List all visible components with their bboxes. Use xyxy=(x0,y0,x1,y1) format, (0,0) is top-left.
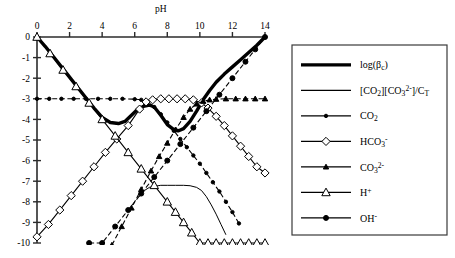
marker-small-filled-circle xyxy=(121,97,124,100)
svg-text:0: 0 xyxy=(35,21,40,31)
marker-filled-triangle xyxy=(148,168,153,173)
series-co2-co3-ratio xyxy=(140,185,226,234)
svg-text:-9: -9 xyxy=(22,218,30,228)
marker-open-diamond xyxy=(261,169,269,177)
legend-label: [CO2][CO32-]/CT xyxy=(360,84,430,97)
marker-small-filled-circle xyxy=(237,222,240,225)
marker-filled-triangle xyxy=(223,96,228,101)
marker-small-filled-circle xyxy=(185,146,188,149)
svg-text:10: 10 xyxy=(195,21,205,31)
marker-filled-circle xyxy=(230,76,235,81)
marker-small-filled-circle xyxy=(205,171,208,174)
svg-text:-3: -3 xyxy=(22,94,30,104)
marker-filled-circle xyxy=(204,109,209,114)
marker-filled-triangle xyxy=(243,96,248,101)
marker-filled-circle xyxy=(263,35,268,40)
marker-open-diamond xyxy=(157,95,165,103)
marker-small-filled-circle xyxy=(324,114,327,117)
marker-small-filled-circle xyxy=(179,137,182,140)
marker-filled-triangle xyxy=(233,96,238,101)
plot-area xyxy=(33,33,269,247)
marker-open-diamond xyxy=(181,95,189,103)
marker-small-filled-circle xyxy=(60,97,63,100)
marker-small-filled-circle xyxy=(231,210,234,213)
svg-text:0: 0 xyxy=(25,32,30,42)
marker-filled-circle xyxy=(139,191,144,196)
marker-filled-circle xyxy=(178,142,183,147)
svg-text:pH: pH xyxy=(155,4,167,14)
marker-filled-circle xyxy=(126,208,131,213)
marker-filled-circle xyxy=(87,241,92,246)
svg-text:4: 4 xyxy=(100,21,105,31)
marker-filled-circle xyxy=(191,125,196,130)
svg-text:-10: -10 xyxy=(17,238,30,248)
svg-text:-8: -8 xyxy=(22,197,30,207)
marker-filled-triangle xyxy=(253,96,258,101)
svg-text:12: 12 xyxy=(228,21,238,31)
marker-filled-circle xyxy=(100,241,105,246)
marker-filled-circle xyxy=(152,175,157,180)
marker-small-filled-circle xyxy=(198,162,201,165)
series-co2 xyxy=(35,97,240,225)
marker-small-filled-circle xyxy=(133,98,136,101)
marker-filled-circle xyxy=(113,224,118,229)
marker-filled-circle xyxy=(243,59,248,64)
marker-small-filled-circle xyxy=(96,97,99,100)
marker-filled-circle xyxy=(253,47,258,52)
marker-open-diamond xyxy=(165,95,173,103)
marker-filled-triangle xyxy=(207,97,212,102)
svg-text:-2: -2 xyxy=(22,74,30,84)
marker-small-filled-circle xyxy=(109,97,112,100)
marker-small-filled-circle xyxy=(153,105,156,108)
svg-text:14: 14 xyxy=(260,21,270,31)
marker-open-diamond xyxy=(173,95,181,103)
marker-small-filled-circle xyxy=(218,190,221,193)
marker-small-filled-circle xyxy=(211,181,214,184)
marker-filled-triangle xyxy=(262,96,267,101)
marker-filled-triangle xyxy=(165,140,170,145)
marker-filled-circle xyxy=(217,92,222,97)
svg-text:6: 6 xyxy=(132,21,137,31)
svg-text:2: 2 xyxy=(67,21,72,31)
marker-filled-circle xyxy=(165,158,170,163)
series-log-beta-c xyxy=(37,37,265,131)
marker-small-filled-circle xyxy=(224,200,227,203)
legend-label: log(βc) xyxy=(360,59,388,72)
marker-small-filled-circle xyxy=(48,97,51,100)
svg-text:-5: -5 xyxy=(22,135,30,145)
svg-text:-7: -7 xyxy=(22,177,30,187)
svg-text:-1: -1 xyxy=(22,53,30,63)
marker-filled-triangle xyxy=(109,242,114,247)
chart-figure: 024681012140-1-2-3-4-5-6-7-8-9-10pHlog(β… xyxy=(0,0,455,258)
svg-text:-4: -4 xyxy=(22,115,30,125)
marker-filled-circle xyxy=(324,215,329,220)
marker-small-filled-circle xyxy=(159,113,162,116)
legend: log(βc)[CO2][CO32-]/CTCO2HCO3-CO32-H+OH- xyxy=(292,45,447,235)
marker-filled-triangle xyxy=(119,224,124,229)
marker-small-filled-circle xyxy=(166,121,169,124)
ph-speciation-chart: 024681012140-1-2-3-4-5-6-7-8-9-10pHlog(β… xyxy=(0,0,455,258)
marker-small-filled-circle xyxy=(192,154,195,157)
marker-small-filled-circle xyxy=(72,97,75,100)
svg-text:8: 8 xyxy=(165,21,170,31)
marker-filled-triangle xyxy=(156,154,161,159)
marker-small-filled-circle xyxy=(35,97,38,100)
svg-text:-6: -6 xyxy=(22,156,30,166)
